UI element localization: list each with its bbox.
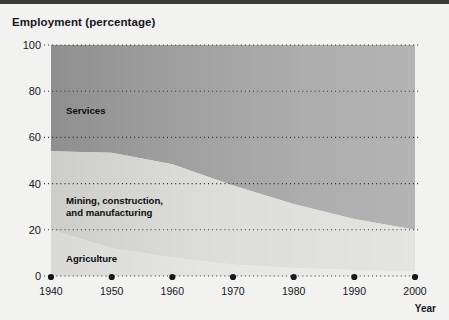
- x-tick-label-1990: 1990: [343, 285, 367, 297]
- x-tick-dot-2000: [412, 274, 418, 280]
- x-tick-label-1950: 1950: [100, 285, 124, 297]
- x-tick-label-1960: 1960: [161, 285, 185, 297]
- y-tick-label-80: 80: [29, 85, 41, 97]
- series-label-agriculture: Agriculture: [66, 253, 117, 264]
- y-tick-label-100: 100: [23, 39, 41, 51]
- y-tick-label-40: 40: [29, 178, 41, 190]
- y-tick-label-60: 60: [29, 131, 41, 143]
- series-label-mining: Mining, construction,: [66, 195, 163, 206]
- x-tick-label-1940: 1940: [39, 285, 63, 297]
- y-tick-label-20: 20: [29, 224, 41, 236]
- area-chart-svg: 0 20 40 60 80 100 1940 1950 1960 1970 19…: [0, 4, 449, 320]
- x-tick-dot-1950: [109, 274, 115, 280]
- x-axis-title: Year: [415, 303, 436, 314]
- x-tick-label-1970: 1970: [221, 285, 245, 297]
- chart-figure: Employment (percentage): [0, 0, 449, 320]
- x-tick-dot-1970: [230, 274, 236, 280]
- series-label-services: Services: [66, 105, 105, 116]
- x-tick-dot-1980: [291, 274, 297, 280]
- series-label-mining-line2: and manufacturing: [66, 207, 152, 218]
- x-tick-dot-1990: [351, 274, 357, 280]
- x-tick-dot-1960: [169, 274, 175, 280]
- y-tick-label-0: 0: [35, 270, 41, 282]
- plot-area: 0 20 40 60 80 100 1940 1950 1960 1970 19…: [0, 4, 449, 320]
- x-tick-label-2000: 2000: [403, 285, 427, 297]
- x-tick-dot-1940: [48, 274, 54, 280]
- x-tick-label-1980: 1980: [282, 285, 306, 297]
